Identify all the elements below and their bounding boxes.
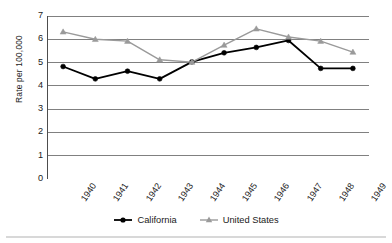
- series-california: [61, 38, 356, 81]
- x-tick-label: 1940: [79, 181, 98, 203]
- data-point: [222, 50, 227, 55]
- legend-item-california[interactable]: California: [113, 215, 176, 225]
- x-tick-label: 1942: [143, 181, 162, 203]
- series-layer: [60, 26, 356, 81]
- x-tick-label: 1945: [240, 181, 259, 203]
- data-point: [157, 76, 162, 81]
- chart-legend: CaliforniaUnited States: [0, 212, 392, 228]
- data-point: [125, 69, 130, 74]
- data-point: [253, 26, 259, 31]
- legend-item-united-states[interactable]: United States: [199, 215, 279, 225]
- x-tick-label: 1948: [337, 181, 356, 203]
- x-tick-label: 1946: [272, 181, 291, 203]
- y-axis-title: Rate per 100,000: [14, 14, 24, 124]
- y-tick-label: 7: [29, 11, 43, 20]
- x-tick-label: 1949: [369, 181, 388, 203]
- legend-label: United States: [223, 215, 279, 225]
- x-tick-label: 1944: [208, 181, 227, 203]
- x-tick-label: 1947: [304, 181, 323, 203]
- x-tick-label: 1943: [176, 181, 195, 203]
- data-point: [93, 76, 98, 81]
- series-united-states: [60, 26, 356, 65]
- data-point: [254, 45, 259, 50]
- data-point: [60, 29, 66, 34]
- legend-label: California: [137, 215, 176, 225]
- series-line: [63, 40, 353, 78]
- data-point: [351, 66, 356, 71]
- y-tick-label: 0: [29, 174, 43, 183]
- y-tick-label: 6: [29, 34, 43, 43]
- legend-triangle-marker-icon: [199, 215, 219, 225]
- y-tick-label: 4: [29, 81, 43, 90]
- bottom-divider: [6, 236, 386, 238]
- y-tick-label: 1: [29, 151, 43, 160]
- y-tick-label: 2: [29, 127, 43, 136]
- line-chart: Rate per 100,000 01234567 19401941194219…: [0, 0, 392, 243]
- plot-svg: [47, 16, 369, 179]
- data-point: [61, 64, 66, 69]
- y-tick-label: 3: [29, 104, 43, 113]
- plot-area: [47, 16, 369, 179]
- y-axis-tick-labels: 01234567: [24, 16, 43, 179]
- x-tick-label: 1941: [111, 181, 130, 203]
- y-tick-label: 5: [29, 58, 43, 67]
- x-axis-tick-labels: 1940194119421943194419451946194719481949: [47, 181, 369, 215]
- data-point: [318, 66, 323, 71]
- legend-circle-marker-icon: [113, 215, 133, 225]
